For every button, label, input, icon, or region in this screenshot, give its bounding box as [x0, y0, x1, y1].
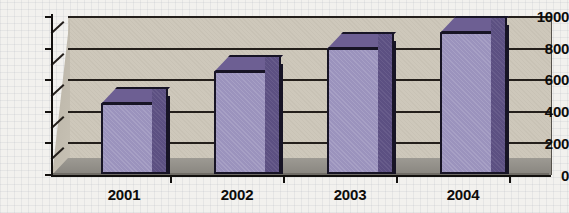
x-axis-label-2003: 2003	[304, 186, 396, 203]
y-tick-600	[45, 79, 53, 81]
x-axis-label-2001: 2001	[78, 186, 170, 203]
chart-plot-area: 0 200 400 600 800 1000 2001 2002 2003 20…	[0, 0, 569, 213]
y-axis-label-800: 800	[525, 41, 569, 56]
bar-2003-side	[378, 32, 394, 174]
x-tick-3	[396, 175, 398, 183]
bar-2001-front	[101, 103, 154, 174]
y-tick-0	[45, 174, 53, 176]
y-axis-line	[51, 14, 53, 176]
bar-2002-side	[265, 55, 281, 174]
y-tick-400	[45, 111, 53, 113]
y-axis-label-0: 0	[525, 168, 569, 183]
x-axis-label-2004: 2004	[417, 186, 509, 203]
x-axis-label-2002: 2002	[191, 186, 283, 203]
y-tick-200	[45, 142, 53, 144]
y-axis-label-600: 600	[525, 72, 569, 87]
y-tick-800	[45, 48, 53, 50]
x-tick-2	[283, 175, 285, 183]
bar-2002-front	[214, 71, 267, 174]
y-axis-label-200: 200	[525, 136, 569, 151]
x-tick-1	[170, 175, 172, 183]
bar-chart-image: 0 200 400 600 800 1000 2001 2002 2003 20…	[0, 0, 569, 213]
bar-2003-front	[327, 48, 380, 174]
x-tick-4	[509, 175, 511, 183]
bar-2001-side	[152, 87, 168, 174]
y-tick-1000	[45, 16, 53, 18]
y-axis-label-1000: 1000	[525, 9, 569, 24]
x-axis-line	[51, 175, 551, 177]
y-axis-label-400: 400	[525, 104, 569, 119]
bar-2004-front	[440, 32, 493, 174]
bar-2004-side	[491, 16, 507, 174]
